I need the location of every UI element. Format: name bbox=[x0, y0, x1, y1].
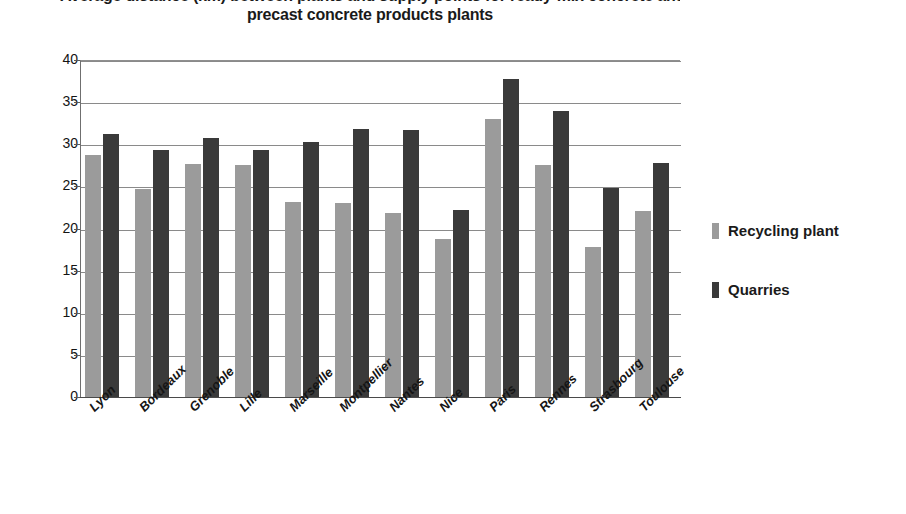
bar-group bbox=[530, 60, 580, 397]
y-axis: 0510152025303540 bbox=[0, 0, 78, 514]
bar bbox=[585, 247, 601, 397]
legend-label: Quarries bbox=[728, 281, 790, 298]
bar-group bbox=[80, 60, 130, 397]
y-tick-label: 10 bbox=[42, 304, 78, 320]
bar-group bbox=[580, 60, 630, 397]
bar bbox=[235, 165, 251, 397]
bar-group bbox=[480, 60, 530, 397]
legend-swatch-icon bbox=[712, 282, 719, 298]
bar bbox=[403, 130, 419, 397]
bar bbox=[285, 202, 301, 397]
bar bbox=[553, 111, 569, 397]
bar bbox=[335, 203, 351, 397]
y-tick-label: 0 bbox=[42, 388, 78, 404]
bar-group bbox=[330, 60, 380, 397]
bar-group bbox=[430, 60, 480, 397]
bar bbox=[603, 188, 619, 397]
y-tick-label: 15 bbox=[42, 262, 78, 278]
bar bbox=[535, 165, 551, 397]
bar-group bbox=[130, 60, 180, 397]
bar bbox=[303, 142, 319, 397]
bars-layer bbox=[80, 60, 680, 397]
bar bbox=[503, 79, 519, 397]
legend-entry[interactable]: Quarries bbox=[712, 281, 902, 298]
bar bbox=[203, 138, 219, 397]
legend-label: Recycling plant bbox=[728, 222, 839, 239]
bar bbox=[103, 134, 119, 397]
chart-title-line-2: precast concrete products plants bbox=[60, 5, 680, 24]
bar-group bbox=[280, 60, 330, 397]
bar bbox=[85, 155, 101, 397]
legend-swatch-icon bbox=[712, 223, 719, 239]
bar bbox=[485, 119, 501, 397]
bar bbox=[353, 129, 369, 397]
chart-title: Average distance (km) between plants and… bbox=[60, 0, 680, 24]
y-tick-label: 20 bbox=[42, 220, 78, 236]
bar-group bbox=[230, 60, 280, 397]
bar bbox=[653, 163, 669, 397]
legend-entry[interactable]: Recycling plant bbox=[712, 222, 902, 239]
y-tick-label: 30 bbox=[42, 135, 78, 151]
x-axis-labels: LyonBordeauxGrenobleLilleMarseilleMontpe… bbox=[80, 398, 680, 508]
bar-group bbox=[380, 60, 430, 397]
bar bbox=[453, 210, 469, 397]
bar bbox=[185, 164, 201, 397]
bar-group bbox=[630, 60, 680, 397]
y-tick-label: 25 bbox=[42, 177, 78, 193]
bar-chart-figure: Average distance (km) between plants and… bbox=[0, 0, 906, 514]
y-tick-label: 35 bbox=[42, 93, 78, 109]
chart-legend: Recycling plantQuarries bbox=[712, 222, 902, 340]
bar bbox=[135, 189, 151, 397]
bar bbox=[153, 150, 169, 397]
y-tick-label: 40 bbox=[42, 51, 78, 67]
bar-group bbox=[180, 60, 230, 397]
y-tick-label: 5 bbox=[42, 346, 78, 362]
bar bbox=[253, 150, 269, 397]
bar bbox=[435, 239, 451, 397]
